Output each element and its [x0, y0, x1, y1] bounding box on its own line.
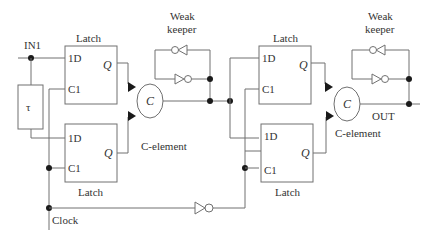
keeper-inverter-bubble — [370, 47, 377, 54]
c-element-label: C-element — [141, 140, 187, 152]
junction-dot — [406, 101, 412, 107]
stage2: Latch 1D C1 Q Latch 1D C1 Q C C-element … — [259, 10, 420, 198]
latch-c-pin: C1 — [262, 83, 275, 95]
latch-title: Latch — [76, 32, 102, 44]
input-arrow — [326, 111, 334, 121]
clock-label: Clock — [52, 214, 79, 226]
junction-dot — [406, 76, 412, 82]
input-arrow — [128, 111, 136, 121]
keeper-label-line2: keeper — [167, 23, 197, 35]
inter-stage-wiring — [227, 58, 259, 171]
latch-title: Latch — [78, 186, 104, 198]
latch-title: Latch — [273, 32, 299, 44]
input-arrow — [128, 82, 136, 92]
junction-dot — [207, 98, 213, 104]
stage1: Latch 1D C1 Q Latch 1D C1 Q C C-element … — [65, 10, 228, 198]
circuit-diagram: IN1 τ Clock Latch 1D C1 Q Latch 1D C1 Q — [0, 0, 435, 235]
junction-dot — [207, 76, 213, 82]
latch-d-pin: 1D — [262, 52, 276, 64]
latch-q-pin: Q — [104, 146, 113, 160]
clock-inverter-bubble — [205, 204, 213, 212]
keeper-inverter-bubble — [382, 76, 389, 83]
c-element-symbol: C — [343, 97, 352, 111]
input-arrow — [325, 82, 333, 92]
latch-d-pin: 1D — [68, 52, 82, 64]
keeper-inverter-bottom — [372, 74, 381, 84]
latch-d-pin: 1D — [264, 130, 278, 142]
output-label: OUT — [372, 110, 395, 122]
keeper-inverter-bubble — [185, 76, 192, 83]
latch-c-pin: C1 — [68, 162, 81, 174]
latch-q-pin: Q — [103, 58, 112, 72]
keeper-label-line1: Weak — [170, 10, 195, 22]
latch-c-pin: C1 — [68, 83, 81, 95]
keeper-inverter-top — [178, 45, 187, 55]
keeper-inverter-bubble — [172, 47, 179, 54]
keeper-label-line1: Weak — [368, 10, 393, 22]
delay-element — [18, 85, 43, 129]
clock-inverter — [195, 202, 205, 214]
c-element-symbol: C — [146, 94, 155, 108]
latch-q-pin: Q — [301, 146, 310, 160]
in1-label: IN1 — [24, 39, 41, 51]
latch-c-pin: C1 — [264, 164, 277, 176]
delay-symbol: τ — [26, 101, 31, 113]
keeper-label-line2: keeper — [365, 23, 395, 35]
latch-title: Latch — [275, 186, 301, 198]
c-element-label: C-element — [335, 127, 381, 139]
keeper-inverter-top — [376, 45, 385, 55]
latch-q-pin: Q — [299, 58, 308, 72]
keeper-inverter-bottom — [175, 74, 184, 84]
latch-d-pin: 1D — [68, 132, 82, 144]
junction-dot — [46, 165, 52, 171]
